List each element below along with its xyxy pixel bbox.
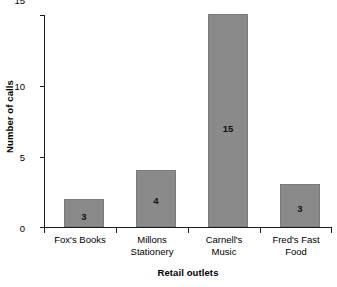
x-axis-title: Retail outlets: [44, 267, 332, 278]
x-category-label-millons-stationery: Millons Stationery: [116, 234, 188, 257]
x-category-line: Millons: [116, 234, 188, 246]
x-category-label-freds-fast-food: Fred's Fast Food: [260, 234, 332, 257]
plot-area: 3 4 15 3: [44, 15, 332, 228]
bar-label-freds-fast-food: 3: [281, 204, 319, 214]
x-tick-mark-2: [188, 228, 189, 233]
y-tick-label-5: 5: [0, 153, 25, 163]
x-tick-mark-4: [331, 228, 332, 233]
x-tick-mark-1: [116, 228, 117, 233]
bar-millons-stationery: 4: [136, 170, 176, 227]
bar-label-millons-stationery: 4: [137, 196, 175, 206]
x-category-line: Fred's Fast: [260, 234, 332, 246]
x-category-line: Music: [188, 246, 260, 258]
x-tick-mark-0: [44, 228, 45, 233]
x-category-line: Carnell's: [188, 234, 260, 246]
x-category-line: Food: [260, 246, 332, 258]
y-tick-mark-5: [40, 157, 44, 158]
y-tick-mark-10: [40, 86, 44, 87]
y-tick-mark-15: [40, 15, 44, 16]
x-category-line: Stationery: [116, 246, 188, 258]
x-category-label-carnells-music: Carnell's Music: [188, 234, 260, 257]
bar-foxs-books: 3: [64, 199, 104, 227]
bar-label-foxs-books: 3: [65, 212, 103, 222]
y-tick-label-15: 15: [0, 0, 25, 6]
x-category-line: Fox's Books: [44, 234, 116, 246]
y-axis-line: [44, 15, 45, 228]
y-tick-label-10: 10: [0, 82, 25, 92]
bar-freds-fast-food: 3: [280, 184, 320, 227]
bar-chart-figure: Number of calls 15 10 5 0 3 4 15 3: [0, 0, 337, 287]
y-axis-title: Number of calls: [0, 0, 18, 232]
bar-label-carnells-music: 15: [209, 124, 247, 134]
x-category-label-foxs-books: Fox's Books: [44, 234, 116, 246]
x-tick-mark-3: [260, 228, 261, 233]
bar-carnells-music: 15: [208, 14, 248, 227]
y-tick-label-0: 0: [0, 224, 25, 234]
